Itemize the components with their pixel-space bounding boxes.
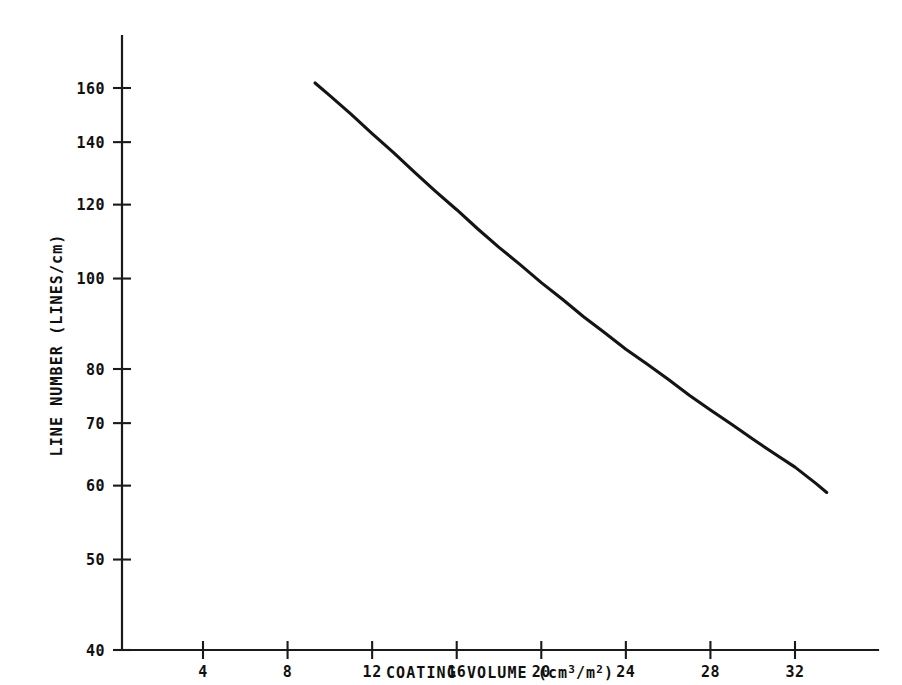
x-tick-label: 12 <box>363 663 382 681</box>
x-tick-label: 4 <box>198 663 208 681</box>
data-series-line <box>315 83 827 492</box>
line-chart: 4050607080100120140160 48121620242832 CO… <box>0 0 902 685</box>
y-tick-label: 100 <box>76 270 105 288</box>
y-axis-title-text: LINE NUMBER (LINES/cm) <box>48 234 66 457</box>
x-axis-title: COATING VOLUME (cm3/m2) <box>386 663 614 682</box>
chart-container: 4050607080100120140160 48121620242832 CO… <box>0 0 902 685</box>
x-tick-label: 24 <box>616 663 635 681</box>
x-tick-label: 28 <box>701 663 720 681</box>
y-tick-label: 50 <box>86 551 105 569</box>
x-axis-title-text: COATING VOLUME (cm3/m2) <box>386 663 614 682</box>
y-tick-label: 40 <box>86 642 105 660</box>
x-tick-label: 32 <box>785 663 804 681</box>
y-tick-label: 60 <box>86 477 105 495</box>
y-tick-label: 70 <box>86 415 105 433</box>
y-tick-label: 140 <box>76 134 105 152</box>
y-tick-label: 120 <box>76 196 105 214</box>
y-tick-label: 80 <box>86 361 105 379</box>
y-tick-label: 160 <box>76 80 105 98</box>
y-axis-title: LINE NUMBER (LINES/cm) <box>48 234 66 457</box>
x-tick-label: 8 <box>283 663 293 681</box>
